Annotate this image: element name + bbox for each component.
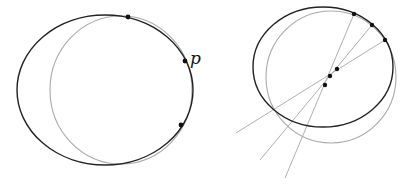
point-marker xyxy=(126,15,131,20)
point-marker xyxy=(183,59,188,64)
boundary-point-marker xyxy=(370,23,374,27)
secant-line xyxy=(260,25,372,160)
inner-circle xyxy=(50,16,192,164)
right-panel xyxy=(236,7,396,178)
boundary-point-marker xyxy=(383,38,387,42)
boundary-point-marker xyxy=(352,12,356,16)
inner-point-marker xyxy=(328,74,332,78)
diagram-canvas: p xyxy=(0,0,406,189)
point-label-p: p xyxy=(190,48,201,68)
inner-point-marker xyxy=(323,83,327,87)
inner-point-marker xyxy=(335,67,339,71)
point-marker xyxy=(179,123,184,128)
secant-line xyxy=(236,40,385,133)
left-panel: p xyxy=(17,15,201,165)
outer-ellipse xyxy=(17,15,193,165)
